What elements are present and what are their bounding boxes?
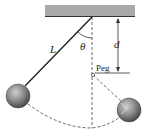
swing-arc (28, 104, 120, 128)
angle-label: θ (80, 40, 86, 52)
peg-label: Peg (96, 63, 110, 73)
pendulum-bob-left (6, 84, 30, 108)
pendulum-peg-diagram: L θ d Peg (0, 0, 147, 136)
angle-arc (78, 32, 92, 38)
length-label: L (49, 43, 56, 55)
peg-string (93, 75, 122, 102)
peg (91, 73, 94, 76)
pendulum-bob-right (117, 98, 141, 122)
distance-label: d (114, 38, 120, 50)
ceiling-support (45, 5, 135, 16)
